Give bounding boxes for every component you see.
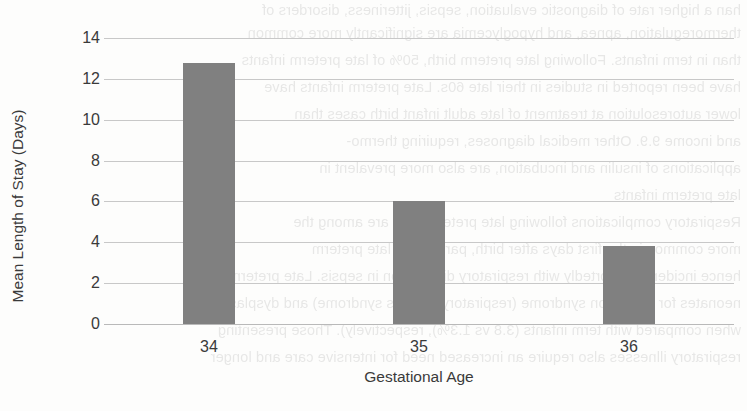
y-axis-tick-label: 12: [56, 70, 100, 88]
y-axis-tick-labels: 02468101214: [40, 0, 100, 411]
y-axis-tick-label: 8: [56, 152, 100, 170]
x-axis-tick-label: 35: [410, 338, 428, 356]
x-axis-line: [104, 324, 734, 325]
y-axis-tick-label: 4: [56, 233, 100, 251]
y-axis-tick-label: 10: [56, 111, 100, 129]
gridline: [104, 38, 734, 39]
bar: [393, 201, 445, 324]
y-axis-tick-label: 0: [56, 315, 100, 333]
plot-area: 343536Gestational Age: [104, 0, 734, 411]
x-axis-title: Gestational Age: [104, 368, 734, 386]
x-axis-tick-label: 34: [200, 338, 218, 356]
bar-chart: Mean Length of Stay (Days) 02468101214 3…: [0, 0, 747, 411]
y-axis-tick-label: 2: [56, 274, 100, 292]
scanned-page: han a higher rate of diagnostic evaluati…: [0, 0, 747, 411]
y-axis-tick-label: 6: [56, 192, 100, 210]
y-axis-tick-label: 14: [56, 29, 100, 47]
y-axis-title: Mean Length of Stay (Days): [9, 76, 27, 336]
bar: [183, 63, 235, 324]
x-axis-tick-label: 36: [620, 338, 638, 356]
bar: [603, 246, 655, 324]
